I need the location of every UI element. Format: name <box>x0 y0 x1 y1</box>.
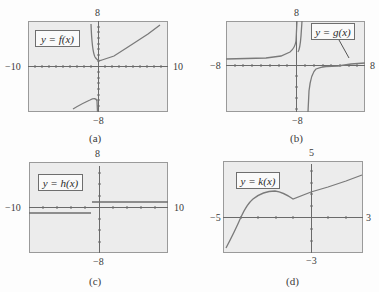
panel-a-caption: (a) <box>89 133 101 144</box>
panel-b-y-max-label: 8 <box>294 8 299 18</box>
panel-d-caption: (d) <box>286 276 299 287</box>
panel-a-function-label: y = f(x) <box>35 30 80 47</box>
panel-b-caption: (b) <box>290 133 303 144</box>
panel-d-function-label: y = k(x) <box>236 172 280 189</box>
panel-c-x-max-label: 10 <box>174 203 184 213</box>
panel-a-y-min-label: −8 <box>93 116 104 126</box>
panel-a-y-max-label: 8 <box>95 8 100 18</box>
panel-b-function-label: y = g(x) <box>311 23 355 40</box>
panel-c-y-min-label: −8 <box>93 257 104 267</box>
panel-d-x-min-label: −5 <box>210 213 221 223</box>
panel-d-x-max-label: 3 <box>366 213 371 223</box>
panel-b-x-min-label: −8 <box>210 61 221 71</box>
panel-d-y-min-label: −3 <box>306 256 317 266</box>
panel-b-y-min-label: −8 <box>292 116 303 126</box>
panel-b-x-max-label: 8 <box>370 61 375 71</box>
panel-a-x-max-label: 10 <box>173 62 183 72</box>
panel-c-x-min-label: −10 <box>5 203 21 213</box>
panel-c-caption: (c) <box>89 276 101 287</box>
panel-c-y-max-label: 8 <box>95 149 100 159</box>
panel-c-function-label: y = h(x) <box>38 174 83 191</box>
panel-d-y-max-label: 5 <box>309 148 314 158</box>
panel-a-x-min-label: −10 <box>5 62 21 72</box>
